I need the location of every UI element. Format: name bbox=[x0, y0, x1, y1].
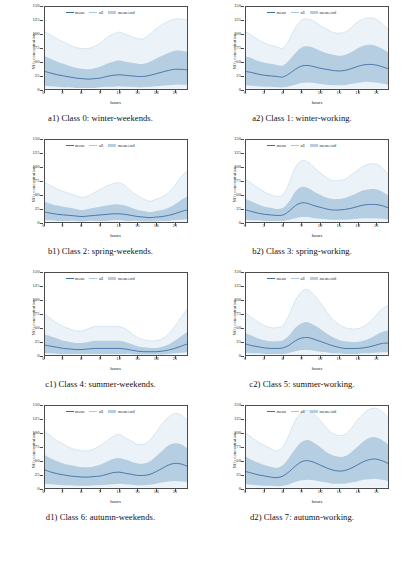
y-tick-50: 50 bbox=[217, 459, 241, 464]
y-tickmark bbox=[40, 209, 43, 210]
y-tickmark bbox=[40, 139, 43, 140]
x-tickmark bbox=[137, 223, 138, 226]
y-tickmark bbox=[241, 328, 244, 329]
chart-canvas bbox=[246, 406, 388, 488]
legend-line-all-icon bbox=[291, 12, 299, 13]
legend-line-mean-icon bbox=[66, 12, 74, 13]
legend-label-all: all bbox=[99, 409, 103, 414]
legend-label-meanstd: mean±std bbox=[319, 276, 336, 281]
legend-line-mean-icon bbox=[267, 12, 275, 13]
y-tick-150: 150 bbox=[16, 270, 40, 275]
panel-b1: NO2 concentration 0255075100125150 mean … bbox=[0, 133, 201, 266]
chart-canvas bbox=[246, 273, 388, 355]
legend-label-mean: mean bbox=[277, 10, 286, 15]
chart-canvas bbox=[45, 406, 187, 488]
x-tickmark bbox=[175, 223, 176, 226]
y-tickmark bbox=[40, 489, 43, 490]
y-tickmark bbox=[241, 6, 244, 7]
y-tickmark bbox=[40, 223, 43, 224]
chart-legend: mean all mean±std bbox=[267, 276, 336, 281]
legend-patch-meanstd-icon bbox=[108, 277, 116, 280]
legend-label-all: all bbox=[99, 10, 103, 15]
x-tickmark bbox=[156, 356, 157, 359]
x-axis-label: hours bbox=[245, 366, 389, 371]
legend-entry-mean: mean bbox=[66, 143, 85, 148]
legend-line-all-icon bbox=[291, 145, 299, 146]
y-tickmark bbox=[40, 405, 43, 406]
legend-entry-meanstd: mean±std bbox=[108, 10, 134, 15]
x-tickmark bbox=[137, 90, 138, 93]
legend-label-mean: mean bbox=[75, 409, 84, 414]
x-tickmark bbox=[175, 356, 176, 359]
chart-canvas bbox=[45, 273, 187, 355]
legend-entry-mean: mean bbox=[66, 276, 85, 281]
y-tick-150: 150 bbox=[217, 270, 241, 275]
legend-patch-meanstd-icon bbox=[310, 277, 318, 280]
y-tick-25: 25 bbox=[16, 74, 40, 79]
legend-label-mean: mean bbox=[75, 276, 84, 281]
legend-entry-meanstd: mean±std bbox=[310, 10, 336, 15]
y-tickmark bbox=[40, 167, 43, 168]
x-tickmark bbox=[264, 223, 265, 226]
y-tick-100: 100 bbox=[217, 32, 241, 37]
x-tickmark bbox=[62, 223, 63, 226]
plot-area: NO2 concentration 0255075100125150 mean … bbox=[8, 0, 194, 110]
x-tickmark bbox=[137, 489, 138, 492]
y-tickmark bbox=[40, 461, 43, 462]
x-tickmark bbox=[301, 489, 302, 492]
y-tickmark bbox=[40, 90, 43, 91]
x-tickmark bbox=[137, 356, 138, 359]
y-tickmark bbox=[40, 433, 43, 434]
panel-c2: NO2 concentration 0255075100125150 mean … bbox=[201, 266, 403, 399]
y-tickmark bbox=[241, 475, 244, 476]
y-tick-labels: 0255075100125150 bbox=[16, 133, 40, 229]
legend-label-meanstd: mean±std bbox=[118, 143, 135, 148]
y-tick-25: 25 bbox=[16, 473, 40, 478]
x-tickmark bbox=[119, 489, 120, 492]
y-tickmark bbox=[40, 356, 43, 357]
y-tickmark bbox=[241, 300, 244, 301]
y-tick-0: 0 bbox=[217, 221, 241, 226]
y-tick-150: 150 bbox=[217, 403, 241, 408]
y-tick-125: 125 bbox=[217, 151, 241, 156]
legend-entry-all: all bbox=[291, 409, 305, 414]
x-tickmark bbox=[119, 356, 120, 359]
chart-legend: mean all mean±std bbox=[267, 143, 336, 148]
legend-entry-meanstd: mean±std bbox=[108, 409, 134, 414]
x-tickmark bbox=[283, 90, 284, 93]
x-tickmark bbox=[245, 223, 246, 226]
y-tickmark bbox=[40, 300, 43, 301]
legend-line-mean-icon bbox=[267, 145, 275, 146]
x-tickmark bbox=[320, 356, 321, 359]
y-tickmark bbox=[241, 461, 244, 462]
y-tick-100: 100 bbox=[16, 298, 40, 303]
panel-b2: NO2 concentration 0255075100125150 mean … bbox=[201, 133, 403, 266]
x-tickmark bbox=[358, 489, 359, 492]
plot-area: NO2 concentration 0255075100125150 mean … bbox=[209, 266, 395, 376]
x-tickmark bbox=[245, 356, 246, 359]
y-tick-150: 150 bbox=[16, 4, 40, 9]
y-tick-125: 125 bbox=[217, 18, 241, 23]
y-tickmark bbox=[241, 272, 244, 273]
legend-line-all-icon bbox=[291, 278, 299, 279]
legend-entry-all: all bbox=[89, 276, 103, 281]
y-tickmark bbox=[241, 34, 244, 35]
legend-label-mean: mean bbox=[75, 10, 84, 15]
y-tick-50: 50 bbox=[217, 60, 241, 65]
axes-frame bbox=[245, 405, 389, 489]
y-tick-50: 50 bbox=[16, 60, 40, 65]
x-tickmark bbox=[320, 489, 321, 492]
chart-legend: mean all mean±std bbox=[66, 409, 135, 414]
chart-legend: mean all mean±std bbox=[267, 409, 336, 414]
panel-d1: NO2 concentration 0255075100125150 mean … bbox=[0, 399, 201, 532]
legend-line-all-icon bbox=[89, 278, 97, 279]
y-tickmark bbox=[241, 90, 244, 91]
x-tickmark bbox=[283, 223, 284, 226]
y-tick-0: 0 bbox=[16, 354, 40, 359]
y-tick-150: 150 bbox=[16, 137, 40, 142]
y-tickmark bbox=[241, 139, 244, 140]
plot-area: NO2 concentration 0255075100125150 mean … bbox=[209, 133, 395, 243]
y-tickmark bbox=[241, 76, 244, 77]
chart-legend: mean all mean±std bbox=[66, 10, 135, 15]
y-tickmark bbox=[40, 48, 43, 49]
